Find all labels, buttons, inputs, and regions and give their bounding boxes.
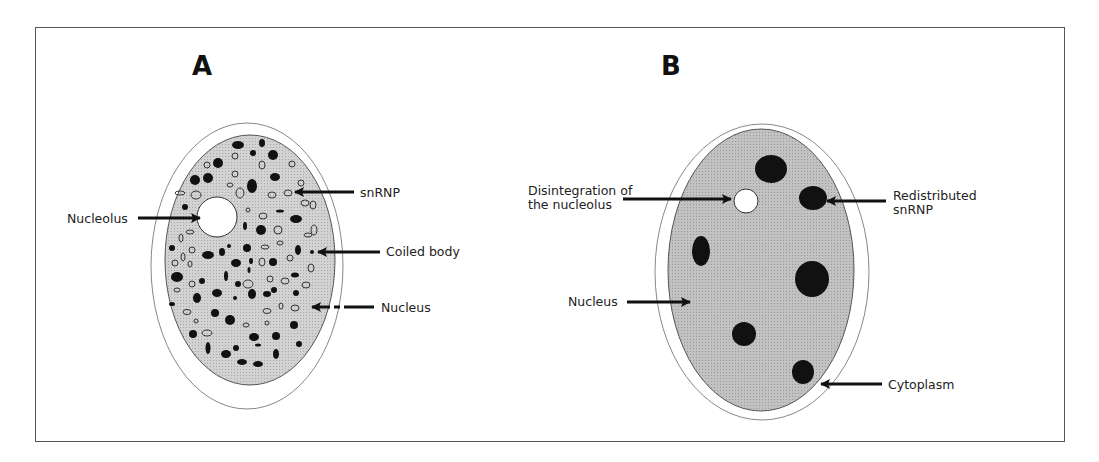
label-disintegration-2: the nucleolus [528,197,612,212]
panel-letter-b: B [661,51,681,81]
label-nucleus-a: Nucleus [381,300,431,315]
label-snrnp: snRNP [360,185,400,200]
label-nucleolus: Nucleolus [67,211,128,226]
nucleolus-b [734,189,758,213]
label-disintegration-1: Disintegration of [528,183,633,198]
label-nucleus-b: Nucleus [568,294,618,309]
nucleolus-a [197,197,237,237]
label-cytoplasm: Cytoplasm [888,377,954,392]
panel-letter-a: A [192,51,212,81]
panel-a: A [67,51,460,409]
label-redistributed-1: Redistributed [893,188,977,203]
cell-diagram: A [0,0,1099,462]
label-coiled-body: Coiled body [386,244,460,259]
panel-b: B Disintegration of the nucleolus Redist… [528,51,977,420]
label-redistributed-2: snRNP [893,202,933,217]
